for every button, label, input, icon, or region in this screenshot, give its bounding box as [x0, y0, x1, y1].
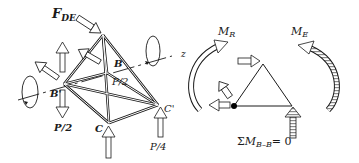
rotation-arrow-left-icon: [22, 76, 38, 108]
truss-moment-diagram: FDE B B' C C' P/2 P/2 P/4 z: [0, 0, 359, 163]
moment-equation: ΣMB–B= 0: [237, 135, 292, 149]
force-up-arrow-icon: [56, 42, 69, 72]
moment-me-label: ME: [290, 25, 308, 39]
force-fde-label: FDE: [51, 6, 76, 23]
load-b-prime-label: P/2: [53, 122, 72, 133]
moment-mr-arrow-icon: [191, 40, 228, 110]
force-top-arrow-icon: [238, 55, 260, 67]
node-c-prime-label: C': [164, 103, 174, 114]
force-hatched-up-arrow-icon: [285, 107, 301, 138]
node-b-label: B: [113, 58, 122, 69]
force-left-arrow-icon: [209, 99, 230, 111]
force-diag-arrow-icon: [214, 78, 235, 100]
load-c-arrow-icon: [102, 126, 115, 158]
moment-me-arrow-icon: [298, 41, 337, 110]
space-truss: FDE B B' C C' P/2 P/2 P/4 z: [18, 6, 186, 158]
free-body-triangle: MR ME ΣMB–B= 0: [191, 25, 337, 149]
node-c-label: C: [95, 123, 103, 134]
node-b-prime-label: B': [49, 88, 62, 99]
force-fde-arrow-icon: [74, 13, 104, 38]
force-diagonal-arrow-icon: [32, 57, 62, 83]
pivot-point: [231, 103, 237, 109]
triangle-outline: [234, 64, 292, 106]
load-c-prime-label: P/4: [149, 141, 166, 152]
load-b-label: P/2: [111, 76, 128, 87]
axis-z-label: z: [180, 49, 186, 59]
moment-mr-label: MR: [217, 25, 235, 39]
